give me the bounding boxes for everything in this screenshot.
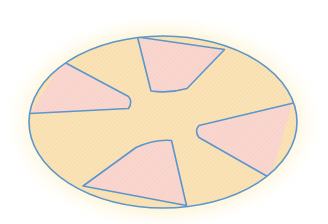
ellipse-sector-figure: [0, 0, 328, 224]
hatch-texture: [29, 36, 297, 208]
